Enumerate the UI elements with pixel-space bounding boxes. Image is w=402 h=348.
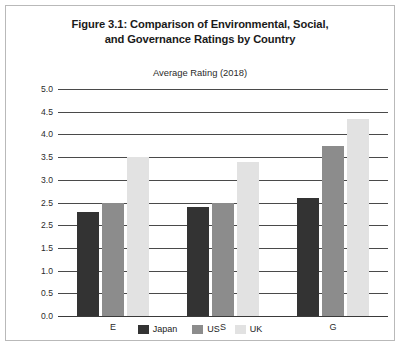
y-axis-tick: 4.5 [13,107,53,117]
bar-uk-g[interactable] [347,119,369,316]
page-title: Figure 3.1: Comparison of Environmental,… [6,17,394,47]
figure-title-line-2: and Governance Ratings by Country [6,32,394,47]
y-axis-tick: 0.5 [13,288,53,298]
legend-item-japan[interactable]: Japan [138,324,178,334]
bar-japan-s[interactable] [187,207,209,316]
bar-us-g[interactable] [322,146,344,316]
legend-swatch-us-icon [192,325,203,334]
legend-item-uk[interactable]: UK [235,324,263,334]
chart-legend: JapanUSUK [6,324,394,334]
bar-group-s: S [168,89,278,316]
bar-group-e: E [58,89,168,316]
y-axis-tick: 2.5 [13,220,53,230]
y-axis-tick: 0.0 [13,311,53,321]
legend-label: UK [250,324,263,334]
bars [168,89,278,316]
gridline [58,316,388,317]
y-axis-tick: 3.5 [13,152,53,162]
legend-label: US [207,324,220,334]
bar-group-g: G [278,89,388,316]
bar-chart-plot-area: 5.04.54.03.53.02.52.51.51.00.50.0 ESG [58,89,388,316]
figure-container: Figure 3.1: Comparison of Environmental,… [5,5,395,341]
y-axis-tick: 5.0 [13,84,53,94]
figure-subtitle: Average Rating (2018) [6,67,394,78]
y-axis-tick: 3.0 [13,175,53,185]
bars [278,89,388,316]
legend-swatch-uk-icon [235,325,246,334]
legend-swatch-japan-icon [138,325,149,334]
y-axis-tick: 2.5 [13,198,53,208]
y-axis-tick: 1.0 [13,266,53,276]
bar-japan-g[interactable] [297,198,319,316]
bar-japan-e[interactable] [77,212,99,316]
bars [58,89,168,316]
legend-item-us[interactable]: US [192,324,220,334]
bar-uk-s[interactable] [237,162,259,316]
figure-title-line-1: Figure 3.1: Comparison of Environmental,… [6,17,394,32]
bar-us-s[interactable] [212,203,234,317]
y-axis-tick: 1.5 [13,243,53,253]
bar-uk-e[interactable] [127,157,149,316]
legend-label: Japan [153,324,178,334]
y-axis-tick: 4.0 [13,129,53,139]
bar-us-e[interactable] [102,203,124,317]
